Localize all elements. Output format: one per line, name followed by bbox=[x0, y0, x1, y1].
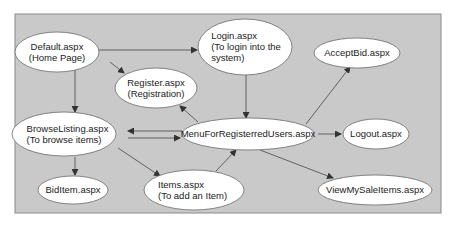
node-browse: BrowseListing.aspx(To browse items) bbox=[12, 112, 116, 156]
node-register: Register.aspx(Registration) bbox=[115, 68, 197, 108]
node-label: Logout.aspx bbox=[350, 128, 402, 139]
node-viewsale: ViewMySaleItems.aspx bbox=[318, 175, 432, 205]
node-label: (To login into the bbox=[211, 41, 281, 52]
node-label: (Home Page) bbox=[29, 52, 86, 63]
node-label: BidItem.aspx bbox=[46, 184, 101, 195]
node-biditem: BidItem.aspx bbox=[38, 176, 108, 204]
node-label: (To browse items) bbox=[27, 134, 102, 145]
node-menu: MenuForRegisterredUsers.aspx bbox=[181, 118, 316, 150]
node-label: (Registration) bbox=[127, 88, 184, 99]
node-label: (To add an Item) bbox=[158, 190, 227, 201]
node-label: BrowseListing.aspx bbox=[27, 123, 109, 134]
node-label: MenuForRegisterredUsers.aspx bbox=[181, 128, 316, 139]
node-items: Items.aspx(To add an Item) bbox=[144, 170, 244, 210]
node-login: Login.aspx(To login into thesystem) bbox=[198, 19, 292, 75]
page-flow-diagram: Default.aspx(Home Page)Login.aspx(To log… bbox=[0, 0, 454, 230]
node-label: system) bbox=[211, 52, 244, 63]
node-label: Register.aspx bbox=[127, 77, 185, 88]
node-logout: Logout.aspx bbox=[343, 119, 409, 149]
node-label: Items.aspx bbox=[158, 179, 204, 190]
node-label: Default.aspx bbox=[31, 41, 84, 52]
node-label: Login.aspx bbox=[211, 30, 257, 41]
node-label: AcceptBid.aspx bbox=[324, 47, 390, 58]
node-label: ViewMySaleItems.aspx bbox=[326, 184, 424, 195]
node-default: Default.aspx(Home Page) bbox=[15, 32, 99, 72]
node-acceptbid: AcceptBid.aspx bbox=[314, 38, 400, 68]
